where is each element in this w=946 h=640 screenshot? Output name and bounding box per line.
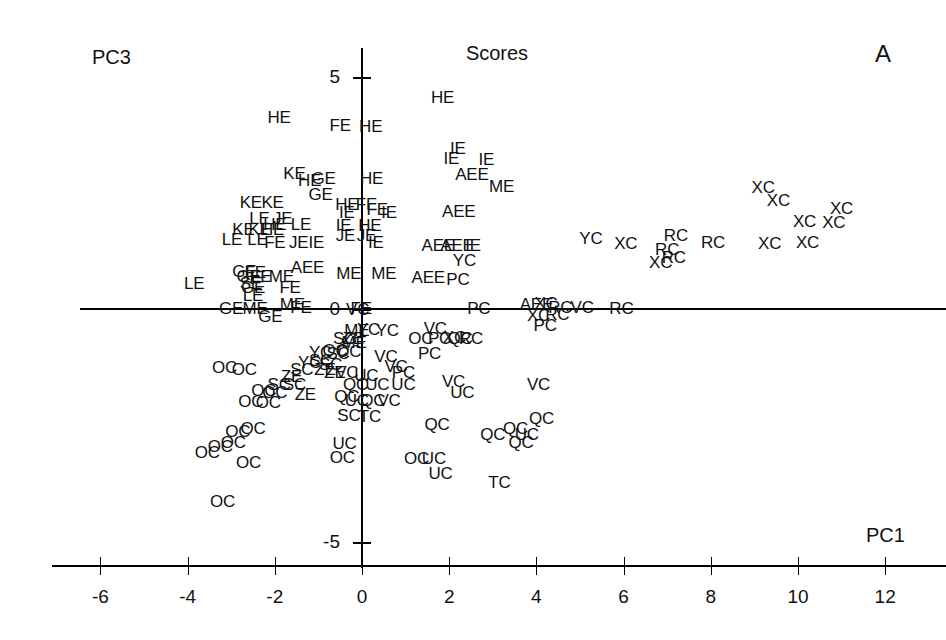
data-point-label: OC [330, 448, 355, 465]
x-tick-label: 2 [444, 586, 455, 608]
y-tick-mark [353, 542, 371, 544]
data-point-label: OC [256, 394, 281, 411]
data-point-label: IE [308, 233, 324, 250]
data-point-label: QC [509, 433, 534, 450]
data-point-label: GE [219, 300, 243, 317]
x-tick-label: -4 [179, 586, 196, 608]
x-tick-label: -2 [266, 586, 283, 608]
data-point-label: RC [609, 300, 633, 317]
x-tick-mark [100, 557, 101, 575]
y-tick-label: -5 [0, 531, 340, 553]
data-point-label: GE [308, 185, 332, 202]
data-point-label: PC [418, 345, 441, 362]
x-tick-label: 10 [787, 586, 808, 608]
panel-label: A [875, 40, 891, 68]
data-point-label: LE [222, 231, 242, 248]
data-point-label: AEE [455, 166, 488, 183]
x-tick-mark [536, 557, 537, 575]
data-point-label: RC [548, 298, 572, 315]
data-point-label: PC [534, 317, 557, 334]
x-tick-label: -6 [92, 586, 109, 608]
data-point-label: IE [381, 204, 397, 221]
x-tick-label: 12 [875, 586, 896, 608]
data-point-label: XC [822, 213, 845, 230]
data-point-label: FE [290, 298, 311, 315]
x-tick-label: 8 [706, 586, 717, 608]
data-point-label: UC [450, 383, 474, 400]
x-tick-mark [449, 557, 450, 575]
data-point-label: UC [428, 464, 452, 481]
data-point-label: ZE [295, 385, 316, 402]
data-point-label: TC [488, 473, 510, 490]
data-point-label: HE [431, 89, 454, 106]
data-point-label: ME [243, 300, 268, 317]
data-point-label: QC [480, 425, 505, 442]
data-point-label: FE [264, 233, 285, 250]
data-point-label: RC [459, 329, 483, 346]
data-point-label: VC [527, 376, 550, 393]
data-point-label: YC [376, 321, 399, 338]
x-axis-title: PC1 [866, 524, 905, 547]
data-point-label: XC [758, 234, 781, 251]
data-point-label: JE [336, 226, 355, 243]
data-point-label: ME [489, 177, 514, 194]
data-point-label: YC [453, 252, 476, 269]
data-point-label: OC [210, 492, 235, 509]
data-point-label: RC [701, 233, 725, 250]
data-point-label: FE [279, 278, 300, 295]
x-tick-mark [362, 557, 363, 575]
data-point-label: AEE [412, 269, 445, 286]
data-point-label: XC [767, 191, 790, 208]
data-point-label: QC [424, 416, 449, 433]
data-point-label: OC [236, 454, 261, 471]
data-point-label: YC [579, 230, 602, 247]
data-point-label: AEE [442, 203, 475, 220]
data-point-label: AEE [291, 259, 324, 276]
data-point-label: OC [232, 361, 257, 378]
data-point-label: JE [289, 233, 308, 250]
data-point-label: LE [291, 216, 311, 233]
data-point-label: HE [360, 169, 383, 186]
data-point-label: LE [184, 275, 204, 292]
x-tick-label: 6 [618, 586, 629, 608]
x-tick-mark [624, 557, 625, 575]
x-scale-axis [52, 565, 946, 567]
data-point-label: HE [268, 109, 291, 126]
scores-scatter-plot: Scores PC3 PC1 A -6-4-2024681012 -505 HE… [0, 0, 946, 640]
data-point-label: PC [446, 270, 469, 287]
data-point-label: FE [330, 117, 351, 134]
x-tick-mark [798, 557, 799, 575]
data-point-label: ME [336, 264, 361, 281]
x-tick-label: 0 [357, 586, 368, 608]
data-point-label: ME [371, 264, 396, 281]
chart-title: Scores [466, 42, 528, 65]
data-point-label: IE [368, 233, 384, 250]
data-point-label: TC [359, 407, 381, 424]
data-point-label: VC [377, 391, 400, 408]
x-tick-mark [188, 557, 189, 575]
data-point-label: XC [649, 253, 672, 270]
data-point-label: XC [793, 212, 816, 229]
x-tick-mark [711, 557, 712, 575]
data-point-label: FE [350, 300, 371, 317]
data-point-label: HE [359, 118, 382, 135]
data-point-label: OC [195, 444, 220, 461]
data-point-label: XC [796, 233, 819, 250]
x-tick-label: 4 [531, 586, 542, 608]
x-tick-mark [275, 557, 276, 575]
x-tick-mark [885, 557, 886, 575]
y-tick-mark [353, 77, 371, 79]
y-tick-label: 5 [0, 66, 340, 88]
data-point-label: OC [221, 433, 246, 450]
data-point-label: VC [571, 298, 594, 315]
data-point-label: SC [337, 407, 360, 424]
data-point-label: XC [614, 234, 637, 251]
data-point-label: PC [467, 300, 490, 317]
